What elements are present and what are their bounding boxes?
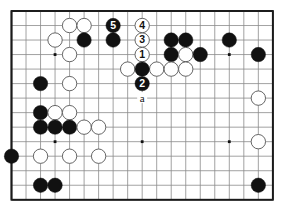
stone-black[interactable] xyxy=(48,178,62,192)
stone-black[interactable] xyxy=(33,178,47,192)
stone-black[interactable] xyxy=(62,120,76,134)
go-board[interactable]: 31245a xyxy=(0,0,291,213)
stone-white[interactable] xyxy=(48,105,62,119)
stone-white[interactable] xyxy=(91,120,105,134)
stone-black[interactable] xyxy=(33,76,47,90)
white-stone xyxy=(77,18,91,32)
stone-black[interactable] xyxy=(164,33,178,47)
stone-black[interactable] xyxy=(251,178,265,192)
stone-black[interactable] xyxy=(164,47,178,61)
white-stone xyxy=(48,105,62,119)
star-point xyxy=(54,140,57,143)
move-number: 5 xyxy=(110,19,116,31)
black-stone xyxy=(251,178,265,192)
black-stone xyxy=(106,33,120,47)
white-stone xyxy=(179,62,193,76)
white-stone xyxy=(62,18,76,32)
stone-black-numbered[interactable]: 2 xyxy=(135,76,149,90)
black-stone xyxy=(4,149,18,163)
stone-white[interactable] xyxy=(62,47,76,61)
stone-white[interactable] xyxy=(62,149,76,163)
black-stone xyxy=(179,33,193,47)
stone-white[interactable] xyxy=(62,76,76,90)
stone-white[interactable] xyxy=(91,149,105,163)
stone-black[interactable] xyxy=(4,149,18,163)
black-stone xyxy=(48,120,62,134)
point-labels: a xyxy=(137,92,147,104)
black-stone xyxy=(33,76,47,90)
go-diagram-screenshot: 31245a xyxy=(0,0,291,213)
stone-white[interactable] xyxy=(164,62,178,76)
white-stone xyxy=(48,33,62,47)
stone-white[interactable] xyxy=(150,62,164,76)
stone-black[interactable] xyxy=(48,120,62,134)
stone-white[interactable] xyxy=(179,62,193,76)
stone-black[interactable] xyxy=(251,47,265,61)
stone-white[interactable] xyxy=(120,62,134,76)
stone-white[interactable] xyxy=(48,33,62,47)
stone-white[interactable] xyxy=(77,120,91,134)
black-stone xyxy=(135,62,149,76)
stone-black[interactable] xyxy=(222,33,236,47)
star-point xyxy=(228,53,231,56)
white-stone xyxy=(179,47,193,61)
stone-white[interactable] xyxy=(251,134,265,148)
black-stone xyxy=(164,47,178,61)
star-point xyxy=(141,140,144,143)
black-stone xyxy=(62,120,76,134)
white-stone xyxy=(77,120,91,134)
stone-white-numbered[interactable]: 4 xyxy=(135,18,149,32)
white-stone xyxy=(91,120,105,134)
white-stone xyxy=(251,134,265,148)
stone-black[interactable] xyxy=(33,105,47,119)
stone-white-numbered[interactable]: 1 xyxy=(135,47,149,61)
white-stone xyxy=(91,149,105,163)
star-point xyxy=(54,53,57,56)
black-stone xyxy=(77,33,91,47)
stone-white[interactable] xyxy=(62,105,76,119)
move-number: 3 xyxy=(139,33,145,45)
stone-white[interactable] xyxy=(179,47,193,61)
stone-black[interactable] xyxy=(193,47,207,61)
black-stone xyxy=(48,178,62,192)
stone-white[interactable] xyxy=(62,18,76,32)
stone-black[interactable] xyxy=(106,33,120,47)
white-stone xyxy=(62,105,76,119)
move-number: 2 xyxy=(139,77,145,89)
stone-black[interactable] xyxy=(135,62,149,76)
black-stone xyxy=(33,120,47,134)
stone-black[interactable] xyxy=(179,33,193,47)
stone-black[interactable] xyxy=(77,33,91,47)
white-stone xyxy=(120,62,134,76)
stone-black-numbered[interactable]: 5 xyxy=(106,18,120,32)
white-stone xyxy=(33,149,47,163)
stone-white[interactable] xyxy=(77,18,91,32)
white-stone xyxy=(62,149,76,163)
white-stone xyxy=(164,62,178,76)
black-stone xyxy=(193,47,207,61)
white-stone xyxy=(62,47,76,61)
white-stone xyxy=(62,76,76,90)
stone-black[interactable] xyxy=(33,120,47,134)
black-stone xyxy=(33,178,47,192)
star-point xyxy=(228,140,231,143)
board-point-label: a xyxy=(140,92,145,104)
black-stone xyxy=(222,33,236,47)
stone-white-numbered[interactable]: 3 xyxy=(135,33,149,47)
move-number: 1 xyxy=(139,48,145,60)
move-number: 4 xyxy=(139,19,145,31)
white-stone xyxy=(150,62,164,76)
white-stone xyxy=(251,91,265,105)
stones: 31245 xyxy=(4,18,265,192)
black-stone xyxy=(164,33,178,47)
stone-white[interactable] xyxy=(251,91,265,105)
stone-white[interactable] xyxy=(33,149,47,163)
black-stone xyxy=(251,47,265,61)
black-stone xyxy=(33,105,47,119)
